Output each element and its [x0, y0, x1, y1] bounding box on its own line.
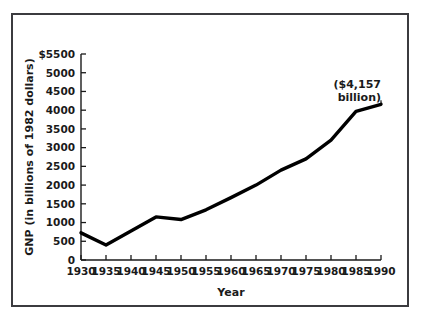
y-tick-label: 500: [53, 235, 75, 247]
y-axis-title: GNP (in billions of 1982 dollars): [23, 58, 36, 255]
y-axis-tick-marks: [81, 54, 86, 260]
y-tick-label: 1500: [46, 198, 75, 210]
x-axis-tick-labels: 1930193519401945195019551960196519701975…: [66, 265, 395, 277]
y-tick-label: 5000: [46, 67, 75, 79]
data-annotation-line-2: billion): [338, 91, 381, 104]
x-axis-title: Year: [216, 286, 245, 299]
y-tick-label: 1000: [46, 216, 75, 228]
gnp-line-chart: $550050004500400035003000250020001500100…: [13, 15, 407, 305]
gnp-data-line: [81, 104, 381, 245]
y-tick-label: 4000: [46, 104, 75, 116]
y-tick-label: 3500: [46, 123, 75, 135]
y-tick-label: 4500: [46, 85, 75, 97]
y-tick-label: 3000: [46, 141, 75, 153]
y-tick-label: 2500: [46, 160, 75, 172]
chart-figure-frame: $550050004500400035003000250020001500100…: [11, 13, 409, 307]
data-annotation-line-1: ($4,157: [334, 78, 381, 91]
y-tick-label: $5500: [38, 48, 75, 60]
y-axis-tick-labels: $550050004500400035003000250020001500100…: [38, 48, 75, 266]
y-tick-label: 0: [68, 254, 75, 266]
x-tick-label: 1990: [366, 265, 395, 277]
y-tick-label: 2000: [46, 179, 75, 191]
x-axis-tick-marks: [81, 255, 381, 260]
